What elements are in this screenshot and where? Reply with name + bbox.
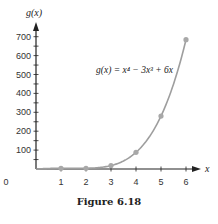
- data-point: [158, 113, 163, 118]
- curve: [36, 40, 186, 169]
- y-axis-arrow-icon: [33, 22, 39, 31]
- axes: 1002003004005006007000123456: [3, 22, 201, 187]
- function-curve: [36, 40, 186, 169]
- y-axis-title: g(x): [26, 7, 43, 19]
- chart: 1002003004005006007000123456 g(x)xg(x) =…: [0, 0, 218, 200]
- y-tick-label: 400: [16, 88, 31, 98]
- y-tick-label: 100: [16, 145, 31, 155]
- x-tick-label: 0: [3, 177, 8, 187]
- data-point: [183, 37, 188, 42]
- x-tick-label: 2: [83, 177, 88, 187]
- y-tick-label: 200: [16, 126, 31, 136]
- x-tick-label: 5: [158, 177, 163, 187]
- x-axis-title: x: [204, 163, 210, 174]
- function-equation: g(x) = x⁴ − 3x³ + 6x: [96, 65, 174, 76]
- data-point: [58, 166, 63, 171]
- x-tick-label: 1: [58, 177, 63, 187]
- data-points: [58, 37, 188, 171]
- y-tick-label: 700: [16, 32, 31, 42]
- figure-caption: Figure 6.18: [0, 196, 218, 207]
- data-point: [83, 166, 88, 171]
- y-tick-label: 500: [16, 70, 31, 80]
- x-tick-label: 4: [133, 177, 138, 187]
- data-point: [133, 150, 138, 155]
- labels: g(x)xg(x) = x⁴ − 3x³ + 6x: [26, 7, 210, 174]
- y-tick-label: 300: [16, 107, 31, 117]
- x-axis-arrow-icon: [192, 166, 201, 172]
- x-tick-label: 6: [183, 177, 188, 187]
- y-tick-label: 600: [16, 51, 31, 61]
- x-tick-label: 3: [108, 177, 113, 187]
- data-point: [108, 163, 113, 168]
